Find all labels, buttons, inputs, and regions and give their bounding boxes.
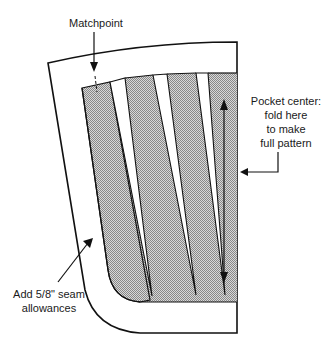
pocket-center-label: Pocket center: fold here to make full pa… [243, 94, 329, 150]
pocket-center-line-2: fold here [243, 108, 329, 122]
pocket-center-line-1: Pocket center: [243, 94, 329, 108]
pocket-center-arrow-icon [240, 168, 248, 176]
seam-allowance-line-1: Add 5/8" seam [12, 287, 86, 301]
seam-allowance-line-2: allowances [12, 301, 86, 315]
pocket-center-line-3: to make [243, 122, 329, 136]
seam-allowance-label: Add 5/8" seam allowances [12, 287, 86, 315]
pocket-center-line-4: full pattern [243, 136, 329, 150]
matchpoint-label: Matchpoint [66, 16, 126, 30]
pocket-center-leader [247, 152, 278, 172]
